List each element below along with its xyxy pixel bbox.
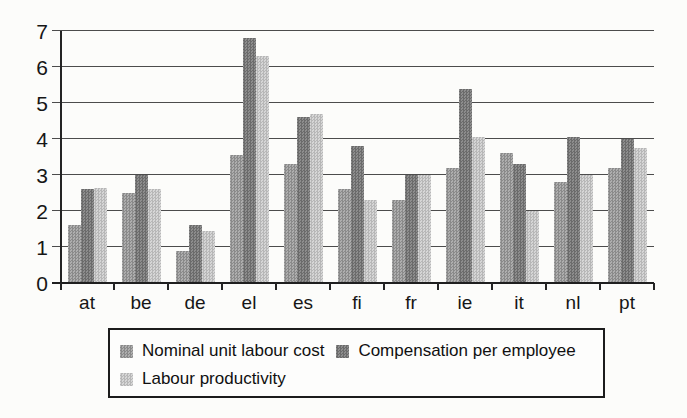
bar-group-nl: [546, 31, 600, 283]
x-tick-label-fr: fr: [384, 292, 438, 314]
y-tick-label-1: 1: [36, 237, 48, 258]
x-tick: [113, 283, 115, 290]
bar-pt-series-0: [608, 168, 621, 283]
bar-group-fi: [330, 31, 384, 283]
bar-it-series-1: [513, 164, 526, 283]
x-tick-label-nl: nl: [546, 292, 600, 314]
legend-label: Labour productivity: [142, 369, 286, 389]
bar-it-series-0: [500, 153, 513, 283]
bar-at-series-2: [94, 188, 107, 283]
y-tick-label-6: 6: [36, 57, 48, 78]
bar-group-de: [168, 31, 222, 283]
bar-group-pt: [600, 31, 654, 283]
bar-group-it: [492, 31, 546, 283]
bar-group-at: [60, 31, 114, 283]
bar-ie-series-2: [472, 137, 485, 283]
y-tick-label-7: 7: [36, 21, 48, 42]
x-tick: [60, 283, 62, 290]
x-tick: [167, 283, 169, 290]
legend-swatch-icon: [120, 345, 133, 358]
x-tick-label-be: be: [114, 292, 168, 314]
x-tick-label-fi: fi: [330, 292, 384, 314]
bar-fr-series-2: [418, 175, 431, 283]
chart-legend: Nominal unit labour cost Compensation pe…: [108, 328, 605, 398]
bar-fi-series-0: [338, 189, 351, 283]
x-tick: [599, 283, 601, 290]
legend-item-labour-productivity: Labour productivity: [120, 369, 286, 389]
y-tick-label-2: 2: [36, 201, 48, 222]
bar-be-series-2: [148, 189, 161, 283]
x-tick-label-pt: pt: [600, 292, 654, 314]
bar-de-series-1: [189, 225, 202, 283]
bar-group-fr: [384, 31, 438, 283]
legend-item-compensation-per-employee: Compensation per employee: [336, 341, 575, 361]
bar-el-series-2: [256, 56, 269, 283]
bar-be-series-1: [135, 175, 148, 283]
plot-area: [60, 31, 654, 283]
legend-swatch-icon: [120, 373, 133, 386]
bar-group-be: [114, 31, 168, 283]
y-axis-line: [60, 31, 62, 283]
y-tick-label-5: 5: [36, 93, 48, 114]
y-tick-label-4: 4: [36, 129, 48, 150]
bar-pt-series-2: [634, 148, 647, 283]
bar-group-ie: [438, 31, 492, 283]
y-axis-tick-labels: 01234567: [20, 0, 48, 418]
bar-nl-series-0: [554, 182, 567, 283]
bar-fr-series-0: [392, 200, 405, 283]
bar-nl-series-1: [567, 137, 580, 283]
x-tick: [221, 283, 223, 290]
bar-be-series-0: [122, 193, 135, 283]
bar-group-el: [222, 31, 276, 283]
bar-el-series-0: [230, 155, 243, 283]
x-axis-line: [52, 282, 654, 284]
bar-es-series-2: [310, 114, 323, 283]
bar-at-series-1: [81, 189, 94, 283]
bar-group-es: [276, 31, 330, 283]
y-tick-label-3: 3: [36, 165, 48, 186]
legend-row-2: Labour productivity: [120, 365, 597, 393]
x-tick: [329, 283, 331, 290]
x-tick: [491, 283, 493, 290]
x-tick-label-at: at: [60, 292, 114, 314]
legend-item-nominal-unit-labour-cost: Nominal unit labour cost: [120, 341, 324, 361]
legend-label: Compensation per employee: [358, 341, 575, 361]
legend-label: Nominal unit labour cost: [142, 341, 324, 361]
bar-fi-series-2: [364, 200, 377, 283]
bar-it-series-2: [526, 211, 539, 283]
x-tick-label-es: es: [276, 292, 330, 314]
bar-es-series-1: [297, 117, 310, 283]
bar-ie-series-1: [459, 89, 472, 283]
bar-at-series-0: [68, 225, 81, 283]
x-tick: [437, 283, 439, 290]
x-tick: [275, 283, 277, 290]
bar-pt-series-1: [621, 139, 634, 283]
bar-de-series-2: [202, 231, 215, 283]
legend-row-1: Nominal unit labour cost Compensation pe…: [120, 337, 597, 365]
scanned-bar-chart-figure: 01234567 atbedeelesfifrieitnlpt Nominal …: [0, 0, 687, 418]
legend-swatch-icon: [336, 345, 349, 358]
x-tick: [653, 283, 655, 290]
x-tick-label-ie: ie: [438, 292, 492, 314]
x-tick-label-it: it: [492, 292, 546, 314]
bar-fr-series-1: [405, 175, 418, 283]
x-tick: [545, 283, 547, 290]
bar-el-series-1: [243, 38, 256, 283]
bar-es-series-0: [284, 164, 297, 283]
bar-fi-series-1: [351, 146, 364, 283]
x-tick-label-de: de: [168, 292, 222, 314]
x-tick-label-el: el: [222, 292, 276, 314]
bar-nl-series-2: [580, 175, 593, 283]
y-tick-label-0: 0: [36, 273, 48, 294]
bar-de-series-0: [176, 251, 189, 283]
x-tick: [383, 283, 385, 290]
bar-ie-series-0: [446, 168, 459, 283]
